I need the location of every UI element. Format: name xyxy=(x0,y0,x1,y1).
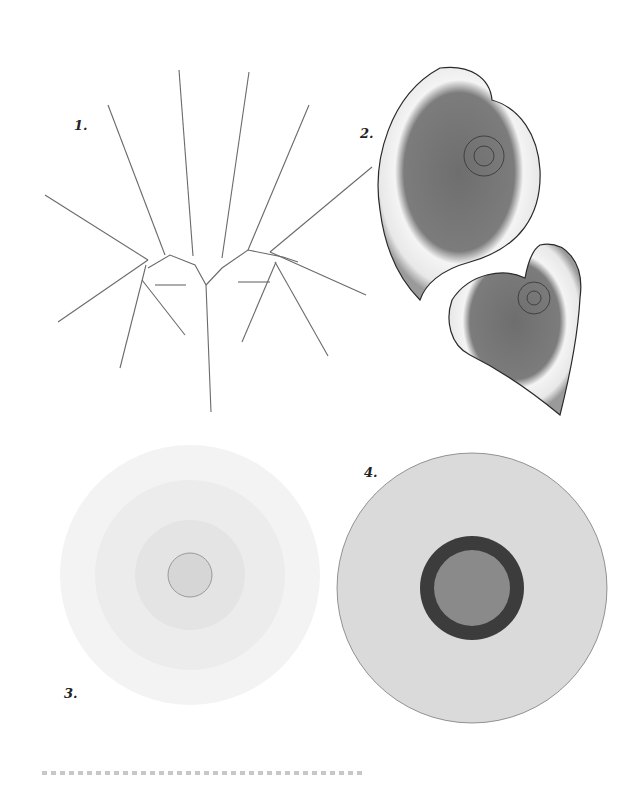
figure-2-label: 2. xyxy=(360,126,374,141)
plate-caption xyxy=(42,771,362,775)
figure-4-label: 4. xyxy=(364,465,378,480)
figure-4-sunflower-illustration xyxy=(0,0,640,785)
figure-3-label: 3. xyxy=(64,686,78,701)
botanical-plate: 1. 2. 3. 4. xyxy=(0,0,640,785)
figure-1-label: 1. xyxy=(74,118,88,133)
